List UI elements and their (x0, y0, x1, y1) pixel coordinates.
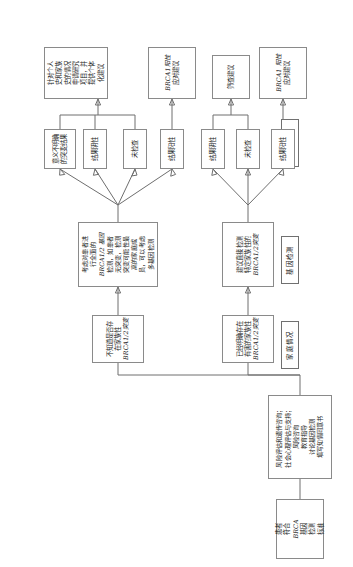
stage-label-text: 基因检测 (286, 245, 295, 274)
node-start[interactable]: 患者符合BRCA基因检测标准 (276, 499, 324, 559)
node-advice-positive-left-label: BRCA1 阳性应对建议 (275, 54, 292, 92)
node-advice-positive-right-label: BRCA1阳性应对建议 (164, 55, 181, 90)
node-result-positive-right-label: 结果阳性 (168, 137, 176, 161)
node-family-unknown-label: 不知道是否存在家族性BRCA1/2突变 (106, 318, 131, 360)
node-result-negative-left-label: 结果阴性 (209, 137, 217, 161)
node-advice-positive-left[interactable]: BRCA1 阳性应对建议 (259, 47, 307, 99)
stage-label-testing: 基因检测 (281, 236, 299, 284)
node-result-negative-right[interactable]: 结果阴性 (83, 129, 107, 169)
node-result-untested-right-label: 未检查 (131, 140, 139, 158)
node-family-known[interactable]: 已经明确存在有害的家族性BRCA1/2突变 (222, 315, 274, 363)
node-test-full-label: 考虑对患者进行全面的BRCA1/2 基因检测，如患者无突变，检测突变可能性最高的… (81, 233, 155, 276)
node-advice-positive-right[interactable]: BRCA1阳性应对建议 (148, 47, 196, 99)
node-advice-screening-label: 筛查建议 (227, 65, 235, 89)
stage-label-text: 家庭情况 (286, 330, 295, 359)
node-result-untested-right[interactable]: 未检查 (123, 129, 147, 169)
node-result-positive-left[interactable]: 结果阳性 (271, 129, 295, 169)
node-advice-personalized[interactable]: 针对个人史和家族史的情况申请研究项目，并提供个体化建议 (44, 47, 108, 99)
node-result-vus[interactable]: 意义不明确的突变结果 (44, 129, 76, 169)
node-advice-screening[interactable]: 筛查建议 (212, 55, 250, 99)
node-result-untested-left-label: 未检查 (244, 140, 252, 158)
node-result-negative-left[interactable]: 结果阴性 (201, 129, 225, 169)
flowchart-stage: 综合征咨询跟进 家庭情况 基因检测 检测结果 建议 患者符合BRCA基因检测标准… (0, 0, 353, 567)
node-result-negative-right-label: 结果阴性 (91, 137, 99, 161)
node-result-vus-label: 意义不明确的突变结果 (52, 134, 69, 165)
node-family-known-label: 已经明确存在有害的家族性BRCA1/2突变 (236, 318, 261, 360)
stage-label-family: 家庭情况 (281, 321, 299, 369)
node-result-positive-right[interactable]: 结果阳性 (160, 129, 184, 169)
node-counseling-label: 风险评估和遗传咨询；社会心理评估与支持；风险咨询教育指导讨论基因检测填写知情同意… (275, 407, 324, 468)
node-family-unknown[interactable]: 不知道是否存在家族性BRCA1/2突变 (92, 315, 144, 363)
node-start-label: 患者符合BRCA基因检测标准 (275, 519, 325, 538)
node-test-full[interactable]: 考虑对患者进行全面的BRCA1/2 基因检测，如患者无突变，检测突变可能性最高的… (78, 222, 158, 287)
node-counseling[interactable]: 风险评估和遗传咨询；社会心理评估与支持；风险咨询教育指导讨论基因检测填写知情同意… (268, 395, 332, 479)
node-test-targeted-label: 建议直接检测特定家族性的BRCA1/2突变 (236, 234, 261, 276)
node-result-positive-left-label: 结果阳性 (279, 137, 287, 161)
node-advice-personalized-label: 针对个人史和家族史的情况申请研究项目，并提供个体化建议 (47, 61, 105, 85)
node-result-untested-left[interactable]: 未检查 (236, 129, 260, 169)
node-test-targeted[interactable]: 建议直接检测特定家族性的BRCA1/2突变 (222, 222, 274, 287)
